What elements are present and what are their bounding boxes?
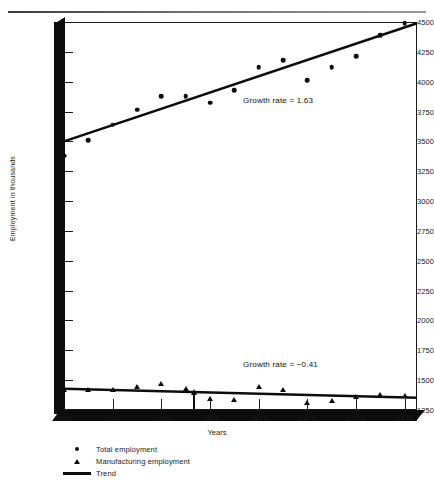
y-tick-label: 1750 <box>388 346 434 355</box>
x-tick-mark <box>405 399 406 410</box>
data-point-total <box>281 58 286 63</box>
y-tick-mark <box>65 231 73 232</box>
data-point-total <box>110 122 115 127</box>
data-point-total <box>183 94 188 99</box>
y-tick-mark <box>65 201 73 202</box>
data-point-total <box>403 21 408 26</box>
y-tick-mark <box>65 291 73 292</box>
annotation-growth-rate-manufacturing: Growth rate = −0.41 <box>243 360 318 369</box>
x-tick-label: 1979 <box>396 414 413 423</box>
y-tick-mark <box>65 261 73 262</box>
data-point-total <box>378 33 383 38</box>
x-tick-label: 1971 <box>202 414 219 423</box>
data-point-total <box>135 107 140 112</box>
data-point-total <box>305 78 310 83</box>
chart-legend: Total employment Manufacturing employmen… <box>62 443 190 479</box>
x-tick-label: 1965 <box>55 414 72 423</box>
data-point-total <box>232 88 237 93</box>
x-tick-label: 1973 <box>250 414 267 423</box>
data-point-total <box>256 65 261 70</box>
x-tick-label: 1977 <box>348 414 365 423</box>
x-tick-label: 1969 <box>153 414 170 423</box>
y-tick-mark <box>65 320 73 321</box>
data-point-manufacturing <box>110 387 116 392</box>
legend-item-total-employment: Total employment <box>62 443 190 455</box>
legend-item-manufacturing-employment: Manufacturing employment <box>62 455 190 467</box>
y-axis-bar <box>54 22 65 414</box>
legend-label: Total employment <box>92 445 157 454</box>
y-tick-mark <box>65 141 73 142</box>
data-point-manufacturing <box>207 396 213 401</box>
data-point-manufacturing <box>183 386 189 391</box>
y-tick-label: 2750 <box>388 226 434 235</box>
data-point-manufacturing <box>304 400 310 405</box>
y-tick-label: 3250 <box>388 167 434 176</box>
data-point-manufacturing <box>61 387 67 392</box>
legend-label: Trend <box>92 469 116 478</box>
data-point-manufacturing <box>85 387 91 392</box>
y-axis-cap <box>54 17 65 24</box>
legend-item-trend: Trend <box>62 467 190 479</box>
data-point-manufacturing <box>256 384 262 389</box>
y-tick-mark <box>65 112 73 113</box>
data-point-manufacturing <box>402 393 408 398</box>
data-point-total <box>354 54 359 59</box>
triangle-marker-icon <box>62 459 92 464</box>
y-tick-label: 4500 <box>388 18 434 27</box>
y-tick-label: 1500 <box>388 376 434 385</box>
data-point-manufacturing <box>353 394 359 399</box>
data-point-manufacturing <box>280 387 286 392</box>
y-tick-label: 3500 <box>388 137 434 146</box>
data-point-manufacturing <box>158 381 164 386</box>
chart-figure: 4500425040003750350032503000275025002250… <box>0 0 434 481</box>
annotation-growth-rate-total: Growth rate = 1.63 <box>243 96 313 105</box>
data-point-manufacturing <box>377 392 383 397</box>
line-marker-icon <box>62 472 92 475</box>
y-tick-mark <box>65 171 73 172</box>
y-tick-mark <box>65 82 73 83</box>
data-point-manufacturing <box>231 397 237 402</box>
data-point-total <box>62 153 67 158</box>
y-tick-label: 2250 <box>388 286 434 295</box>
x-tick-mark <box>356 399 357 410</box>
x-tick-mark <box>161 399 162 410</box>
circle-marker-icon <box>62 447 92 451</box>
data-point-total <box>86 138 91 143</box>
x-tick-mark <box>113 399 114 410</box>
x-tick-label: 1975 <box>299 414 316 423</box>
x-axis-title: Years <box>0 428 434 437</box>
y-tick-label: 4000 <box>388 77 434 86</box>
legend-label: Manufacturing employment <box>92 457 190 466</box>
data-point-total <box>208 100 213 105</box>
data-point-manufacturing <box>134 384 140 389</box>
reference-arrow-stem <box>193 393 194 410</box>
y-tick-mark <box>65 350 73 351</box>
y-tick-mark <box>65 52 73 53</box>
y-tick-label: 4250 <box>388 47 434 56</box>
y-tick-label: 2000 <box>388 316 434 325</box>
y-tick-mark <box>65 380 73 381</box>
plot-area <box>64 22 417 410</box>
y-tick-label: 3000 <box>388 197 434 206</box>
y-tick-label: 3750 <box>388 107 434 116</box>
data-point-manufacturing <box>329 398 335 403</box>
x-tick-mark <box>259 399 260 410</box>
data-point-total <box>159 94 164 99</box>
x-tick-label: 1967 <box>104 414 121 423</box>
data-point-total <box>329 65 334 70</box>
y-tick-label: 2500 <box>388 256 434 265</box>
